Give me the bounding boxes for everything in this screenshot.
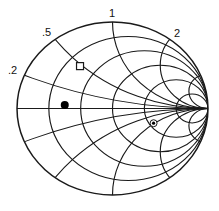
open-square-marker xyxy=(77,63,84,70)
filled-dot-marker xyxy=(61,101,69,109)
label-reactance-0-5: .5 xyxy=(42,27,51,38)
smith-chart xyxy=(0,0,219,211)
label-reactance-1: 1 xyxy=(109,8,115,19)
label-reactance-2: 2 xyxy=(174,28,180,39)
circled-dot-marker xyxy=(150,120,157,127)
label-reactance-0-2: .2 xyxy=(8,65,17,76)
